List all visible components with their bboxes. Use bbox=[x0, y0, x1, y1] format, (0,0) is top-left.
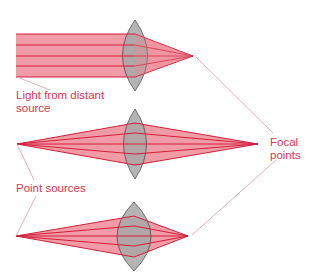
lens-diagram bbox=[0, 0, 314, 280]
leader-point-source-bottom bbox=[16, 196, 36, 236]
label-focal-points: Focal points bbox=[270, 136, 301, 162]
leader-focal-top bbox=[196, 57, 273, 133]
diagram-point-source-close bbox=[16, 202, 188, 271]
label-point-sources: Point sources bbox=[16, 182, 86, 195]
diagram-point-source-near bbox=[17, 109, 258, 179]
leader-focal-bottom bbox=[192, 160, 276, 235]
leader-point-source-middle bbox=[17, 144, 34, 180]
diagram-distant-source bbox=[16, 20, 193, 91]
label-distant-source: Light from distant source bbox=[16, 89, 104, 115]
